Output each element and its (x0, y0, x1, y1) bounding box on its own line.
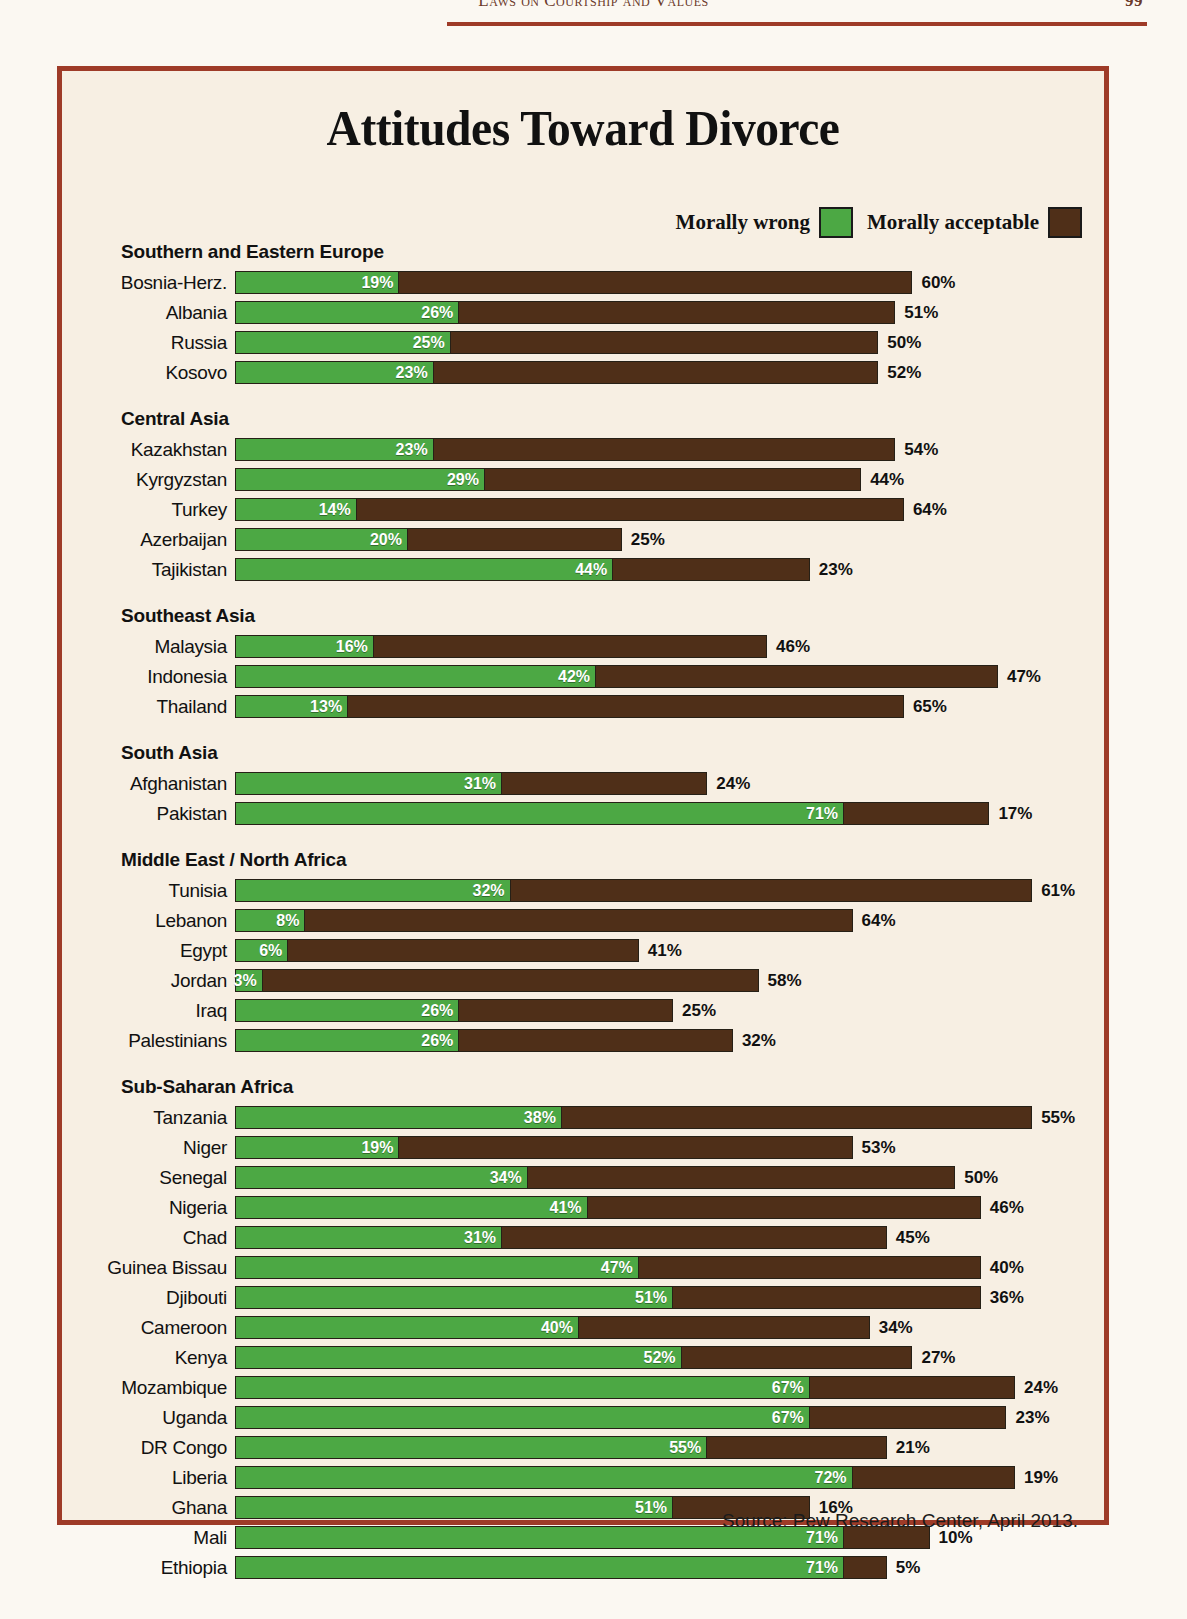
row-label: Russia (62, 332, 235, 354)
bar-value-morally-acceptable: 58% (759, 971, 802, 991)
bar-segment-morally-wrong: 26% (236, 1000, 458, 1021)
stacked-bar: 29% (235, 468, 861, 491)
bar-value-morally-acceptable: 55% (1032, 1108, 1075, 1128)
stacked-bar: 16% (235, 635, 767, 658)
chart-group: Southern and Eastern EuropeBosnia-Herz.1… (62, 241, 1104, 386)
chart-row: Guinea Bissau47%40% (62, 1254, 1104, 1281)
bar-value-morally-acceptable: 24% (707, 774, 750, 794)
row-label: Senegal (62, 1167, 235, 1189)
row-label: Bosnia-Herz. (62, 272, 235, 294)
bar-value-morally-wrong: 26% (421, 1002, 458, 1020)
row-label: Liberia (62, 1467, 235, 1489)
page-running-header: Laws on Courtship and Values 99 (0, 0, 1187, 30)
bar-value-morally-wrong: 47% (601, 1259, 638, 1277)
group-title: Southern and Eastern Europe (121, 241, 1104, 263)
row-label: Mali (62, 1527, 235, 1549)
chart-row: Thailand13%65% (62, 693, 1104, 720)
bar-value-morally-acceptable: 21% (887, 1438, 930, 1458)
bar-value-morally-acceptable: 24% (1015, 1378, 1058, 1398)
bar-value-morally-acceptable: 25% (673, 1001, 716, 1021)
chart-legend: Morally wrong Morally acceptable (676, 207, 1082, 238)
bar-value-morally-acceptable: 25% (622, 530, 665, 550)
bar-segment-morally-acceptable (304, 910, 851, 931)
row-label: Tajikistan (62, 559, 235, 581)
stacked-bar: 44% (235, 558, 810, 581)
bar-value-morally-acceptable: 46% (767, 637, 810, 657)
row-label: Tanzania (62, 1107, 235, 1129)
bar-segment-morally-wrong: 44% (236, 559, 612, 580)
bar-area: 71%17% (235, 801, 1104, 826)
bar-segment-morally-acceptable (501, 773, 706, 794)
brown-swatch-icon (1048, 207, 1082, 238)
bar-segment-morally-acceptable (287, 940, 638, 961)
bar-segment-morally-acceptable (843, 803, 988, 824)
bar-area: 40%34% (235, 1315, 1104, 1340)
bar-segment-morally-acceptable (458, 1030, 732, 1051)
chart-plot-area: Southern and Eastern EuropeBosnia-Herz.1… (62, 241, 1104, 1584)
bar-value-morally-wrong: 19% (361, 1139, 398, 1157)
row-label: Kosovo (62, 362, 235, 384)
bar-value-morally-wrong: 25% (413, 334, 450, 352)
bar-segment-morally-wrong: 23% (236, 439, 433, 460)
bar-value-morally-wrong: 67% (772, 1379, 809, 1397)
bar-area: 25%50% (235, 330, 1104, 355)
page-number: 99 (1125, 0, 1143, 11)
stacked-bar: 40% (235, 1316, 870, 1339)
stacked-bar: 41% (235, 1196, 981, 1219)
bar-value-morally-acceptable: 64% (853, 911, 896, 931)
bar-segment-morally-wrong: 3% (236, 970, 262, 991)
bar-area: 29%44% (235, 467, 1104, 492)
stacked-bar: 19% (235, 271, 912, 294)
bar-segment-morally-wrong: 31% (236, 773, 501, 794)
bar-segment-morally-wrong: 71% (236, 803, 843, 824)
bar-segment-morally-wrong: 42% (236, 666, 595, 687)
bar-value-morally-wrong: 6% (259, 942, 287, 960)
chart-row: Pakistan71%17% (62, 800, 1104, 827)
bar-area: 52%27% (235, 1345, 1104, 1370)
row-label: Palestinians (62, 1030, 235, 1052)
row-label: Djibouti (62, 1287, 235, 1309)
stacked-bar: 25% (235, 331, 878, 354)
bar-segment-morally-wrong: 14% (236, 499, 356, 520)
bar-area: 67%24% (235, 1375, 1104, 1400)
row-label: Pakistan (62, 803, 235, 825)
bar-segment-morally-acceptable (510, 880, 1032, 901)
bar-area: 47%40% (235, 1255, 1104, 1280)
bar-segment-morally-wrong: 67% (236, 1407, 809, 1428)
chart-group: Southeast AsiaMalaysia16%46%Indonesia42%… (62, 605, 1104, 720)
row-label: Ethiopia (62, 1557, 235, 1579)
bar-segment-morally-wrong: 6% (236, 940, 287, 961)
chart-row: Iraq26%25% (62, 997, 1104, 1024)
chart-row: Senegal34%50% (62, 1164, 1104, 1191)
bar-segment-morally-acceptable (527, 1167, 955, 1188)
bar-segment-morally-wrong: 8% (236, 910, 304, 931)
bar-segment-morally-wrong: 67% (236, 1377, 809, 1398)
bar-segment-morally-acceptable (373, 636, 766, 657)
stacked-bar: 6% (235, 939, 639, 962)
stacked-bar: 23% (235, 438, 895, 461)
bar-value-morally-wrong: 32% (473, 882, 510, 900)
bar-value-morally-acceptable: 44% (861, 470, 904, 490)
row-label: Guinea Bissau (62, 1257, 235, 1279)
bar-value-morally-wrong: 8% (276, 912, 304, 930)
bar-value-morally-wrong: 23% (396, 441, 433, 459)
bar-value-morally-acceptable: 54% (895, 440, 938, 460)
bar-value-morally-wrong: 19% (361, 274, 398, 292)
bar-segment-morally-wrong: 26% (236, 302, 458, 323)
row-label: Mozambique (62, 1377, 235, 1399)
stacked-bar: 55% (235, 1436, 887, 1459)
row-label: Malaysia (62, 636, 235, 658)
chart-row: Uganda67%23% (62, 1404, 1104, 1431)
chart-row: Albania26%51% (62, 299, 1104, 326)
chart-row: Turkey14%64% (62, 496, 1104, 523)
bar-value-morally-wrong: 72% (815, 1469, 852, 1487)
bar-segment-morally-wrong: 41% (236, 1197, 587, 1218)
row-label: Cameroon (62, 1317, 235, 1339)
stacked-bar: 42% (235, 665, 998, 688)
chart-row: Mozambique67%24% (62, 1374, 1104, 1401)
bar-segment-morally-acceptable (638, 1257, 980, 1278)
bar-segment-morally-wrong: 19% (236, 272, 398, 293)
stacked-bar: 26% (235, 1029, 733, 1052)
bar-area: 67%23% (235, 1405, 1104, 1430)
bar-segment-morally-acceptable (612, 559, 809, 580)
